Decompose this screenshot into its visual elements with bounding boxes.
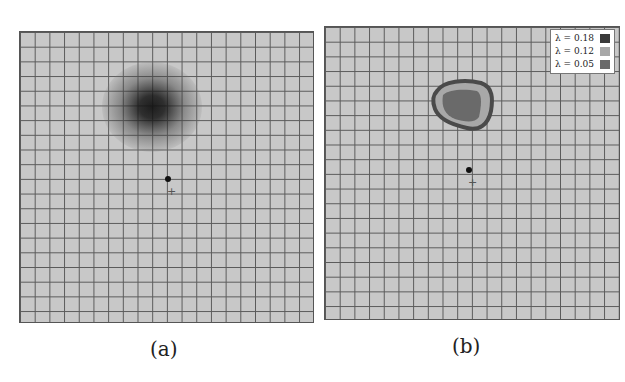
location-dot-marker (466, 167, 472, 173)
panel-a-heatmap: + (19, 31, 314, 323)
crosshair-plus-marker: + (167, 186, 176, 197)
caption-a: (a) (150, 337, 178, 361)
legend-swatch (600, 60, 610, 69)
legend-swatch (600, 34, 610, 43)
legend-swatch (600, 47, 610, 56)
legend-item: λ = 0.12 (555, 45, 610, 58)
panel-b-contour: + λ = 0.18 λ = 0.12 λ = 0.05 (324, 26, 620, 320)
legend-label: λ = 0.05 (555, 58, 594, 71)
legend-label: λ = 0.12 (555, 45, 594, 58)
location-dot-marker (165, 176, 171, 182)
hotspot-halo (102, 62, 202, 152)
legend: λ = 0.18 λ = 0.12 λ = 0.05 (550, 29, 615, 74)
legend-item: λ = 0.05 (555, 58, 610, 71)
caption-b: (b) (452, 334, 480, 358)
crosshair-plus-marker: + (468, 177, 477, 188)
legend-label: λ = 0.18 (555, 32, 594, 45)
legend-item: λ = 0.18 (555, 32, 610, 45)
